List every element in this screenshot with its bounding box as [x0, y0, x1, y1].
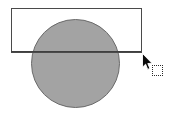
rectangle-shape[interactable]	[11, 8, 142, 53]
drawing-canvas[interactable]	[0, 0, 170, 118]
rectangle-bottom-edge	[11, 51, 141, 52]
drag-ghost-square-icon	[152, 65, 163, 76]
